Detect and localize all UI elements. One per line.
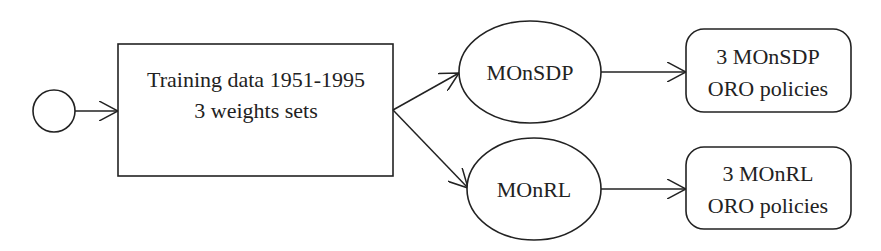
start-node bbox=[33, 90, 75, 132]
training-data-node: Training data 1951-1995 3 weights sets bbox=[118, 44, 393, 176]
monrl-policies-node: 3 MOnRL ORO policies bbox=[686, 147, 851, 229]
training-data-label-line1: Training data 1951-1995 bbox=[147, 67, 365, 92]
monsdp-policies-label-line2: ORO policies bbox=[708, 76, 828, 101]
monsdp-policies-label-line1: 3 MOnSDP bbox=[716, 44, 819, 69]
flow-diagram: Training data 1951-1995 3 weights sets M… bbox=[0, 0, 881, 251]
start-circle-icon bbox=[33, 90, 75, 132]
monsdp-policies-node: 3 MOnSDP ORO policies bbox=[686, 29, 851, 112]
monsdp-label: MOnSDP bbox=[487, 60, 574, 85]
edge-training-to-monrl bbox=[393, 110, 468, 188]
edge-training-to-monsdp bbox=[393, 73, 459, 110]
monrl-policies-label-line2: ORO policies bbox=[708, 193, 828, 218]
monrl-policies-label-line1: 3 MOnRL bbox=[722, 161, 813, 186]
training-data-label-line2: 3 weights sets bbox=[194, 98, 317, 123]
monsdp-node: MOnSDP bbox=[459, 21, 601, 123]
monrl-label: MOnRL bbox=[497, 177, 572, 202]
monrl-node: MOnRL bbox=[467, 138, 601, 240]
